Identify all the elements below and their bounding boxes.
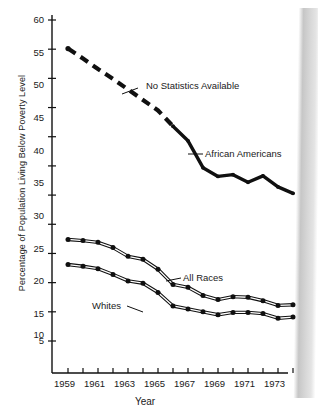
data-point (186, 285, 191, 290)
annotation-leader-lines (122, 88, 203, 312)
data-point (276, 303, 281, 308)
data-point (276, 316, 281, 321)
data-point (201, 166, 205, 170)
series-line-all-races-core (68, 239, 293, 305)
data-point (201, 309, 206, 314)
data-point (216, 312, 221, 317)
data-point (246, 180, 250, 184)
data-point (96, 240, 101, 245)
data-point (156, 267, 161, 272)
data-point (246, 295, 251, 300)
data-point (231, 310, 236, 315)
data-point (81, 264, 86, 269)
data-point (261, 174, 265, 178)
data-point (276, 185, 280, 189)
data-point (231, 173, 235, 177)
data-point (81, 238, 86, 243)
data-point (171, 303, 176, 308)
data-point (141, 281, 146, 286)
data-point (66, 237, 71, 242)
data-point (246, 310, 251, 315)
data-point (96, 266, 101, 271)
series-line-whites-core (68, 265, 293, 319)
data-point (261, 311, 266, 316)
leader-whites (127, 306, 143, 312)
data-point (291, 315, 296, 320)
data-point (291, 302, 296, 307)
series-line-african-americans-solid (173, 126, 293, 193)
data-point (216, 297, 221, 302)
series-line-african-americans-dashed (68, 49, 173, 127)
data-point (201, 293, 206, 298)
axes (48, 15, 293, 373)
plot-area (0, 0, 318, 414)
series-line-whites-outline (68, 265, 293, 319)
series-start-marker-african-americans (65, 46, 70, 51)
poverty-line-chart: Percentage of Population Living Below Po… (0, 0, 318, 414)
data-point (171, 124, 175, 128)
series-lines (65, 46, 295, 321)
series-line-all-races-outline (68, 239, 293, 305)
data-point (231, 294, 236, 299)
data-point (261, 298, 266, 303)
data-point (141, 257, 146, 262)
data-point (126, 278, 131, 283)
data-point (291, 191, 295, 195)
data-point (216, 175, 220, 179)
data-point (186, 306, 191, 311)
data-point (111, 245, 116, 250)
data-point (66, 262, 71, 267)
data-point (186, 139, 190, 143)
data-point (156, 290, 161, 295)
data-point (126, 254, 131, 259)
data-point (111, 272, 116, 277)
data-point (171, 282, 176, 287)
